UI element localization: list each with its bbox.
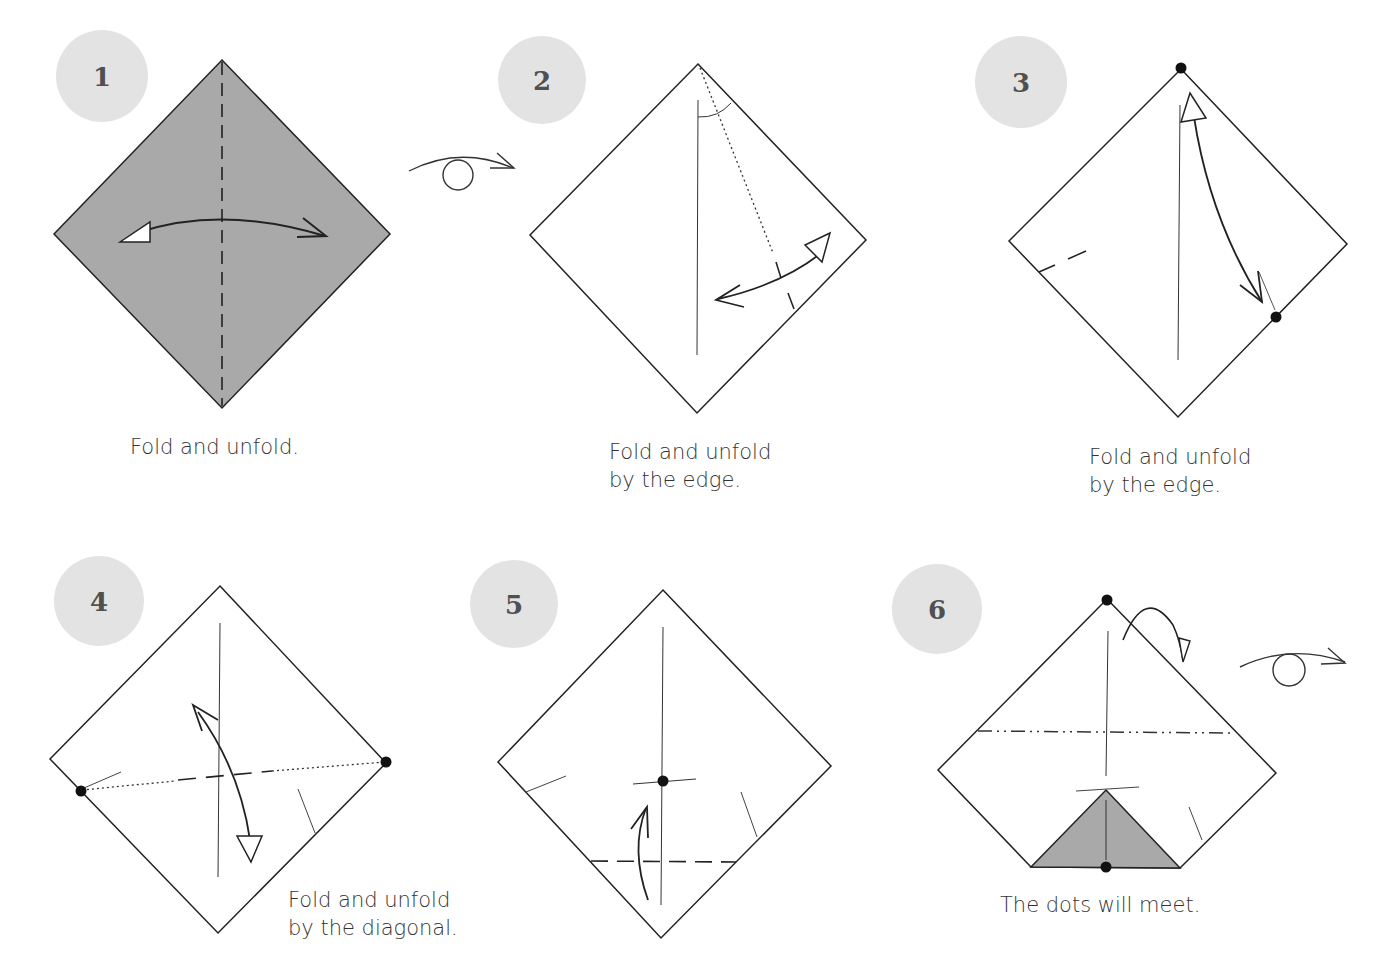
step-4-caption: Fold and unfold by the diagonal.: [288, 886, 458, 942]
step-2: 2: [498, 36, 866, 413]
arrowhead-open-icon: [1179, 638, 1190, 662]
paper-square: [1009, 69, 1347, 417]
step-2-caption: Fold and unfold by the edge.: [609, 438, 771, 494]
step-1: 1: [54, 30, 390, 408]
step-3: 3: [975, 36, 1347, 417]
step-number: 4: [90, 587, 108, 617]
reference-dot: [1271, 312, 1282, 323]
caption-line: by the edge.: [1089, 471, 1251, 499]
caption-line: The dots will meet.: [1000, 891, 1200, 919]
step-1-caption: Fold and unfold.: [130, 433, 299, 461]
reference-dot: [1176, 63, 1187, 74]
step-4: 4: [50, 556, 392, 933]
turn-over-icon: [1240, 648, 1345, 686]
step-number: 3: [1012, 68, 1030, 98]
reference-dot: [381, 757, 392, 768]
turn-over-icon: [409, 153, 514, 190]
caption-line: Fold and unfold: [288, 886, 458, 914]
caption-line: Fold and unfold.: [130, 433, 299, 461]
step-number: 5: [505, 590, 523, 620]
step-number: 2: [533, 66, 551, 96]
reference-dot: [76, 786, 87, 797]
step-5: 5: [470, 560, 831, 938]
caption-line: Fold and unfold: [609, 438, 771, 466]
step-3-caption: Fold and unfold by the edge.: [1089, 443, 1251, 499]
reference-dot: [658, 776, 669, 787]
caption-line: Fold and unfold: [1089, 443, 1251, 471]
paper-square: [498, 590, 831, 938]
reference-dot: [1102, 595, 1113, 606]
caption-line: by the edge.: [609, 466, 771, 494]
reference-dot: [1101, 862, 1112, 873]
step-6: 6: [892, 564, 1276, 873]
step-6-caption: The dots will meet.: [1000, 891, 1200, 919]
caption-line: by the diagonal.: [288, 914, 458, 942]
step-number: 6: [928, 595, 946, 625]
step-number: 1: [93, 62, 111, 92]
